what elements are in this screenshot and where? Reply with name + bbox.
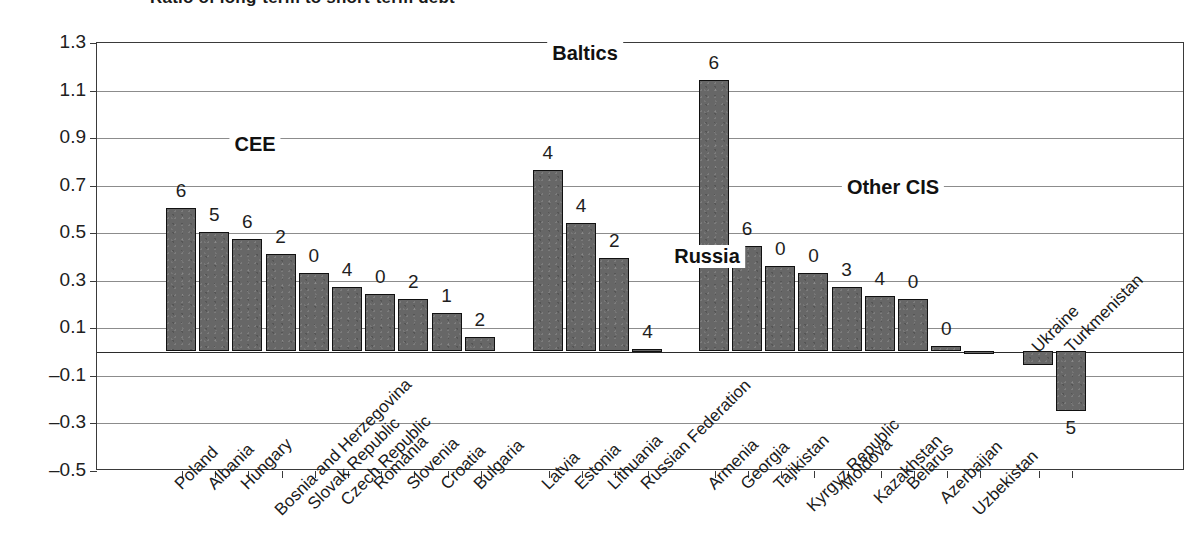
y-tick-label: 1.1 xyxy=(60,79,86,101)
x-tick-mark xyxy=(1039,471,1040,478)
bar-value-label: 2 xyxy=(475,309,486,331)
bar[interactable] xyxy=(1056,351,1086,410)
y-tick-mark xyxy=(90,233,97,234)
bar[interactable] xyxy=(365,294,395,351)
bar-value-label: 2 xyxy=(408,271,419,293)
y-tick-label: 0.5 xyxy=(60,221,86,243)
bar[interactable] xyxy=(599,258,629,351)
group-label-other-cis: Other CIS xyxy=(842,176,944,199)
y-tick-label: –0.1 xyxy=(49,364,86,386)
bar-value-label: 4 xyxy=(576,195,587,217)
bar-value-label: 2 xyxy=(275,226,286,248)
x-tick-mark xyxy=(282,471,283,478)
bar-value-label: 0 xyxy=(808,245,819,267)
bar-value-label: 3 xyxy=(841,259,852,281)
zero-line xyxy=(97,352,1183,353)
gridline xyxy=(97,423,1183,424)
bar[interactable] xyxy=(566,223,596,351)
y-tick-label: 0.9 xyxy=(60,126,86,148)
y-tick-mark xyxy=(90,43,97,44)
bar-value-label: 1 xyxy=(441,285,452,307)
x-tick-mark xyxy=(1072,471,1073,478)
bar-value-label: 4 xyxy=(642,321,653,343)
gridline xyxy=(97,233,1183,234)
bar[interactable] xyxy=(632,349,662,352)
bar[interactable] xyxy=(398,299,428,351)
bar[interactable] xyxy=(964,351,994,354)
bar[interactable] xyxy=(232,239,262,351)
x-tick-mark xyxy=(814,471,815,478)
y-tick-label: –0.5 xyxy=(49,459,86,481)
x-tick-mark xyxy=(947,471,948,478)
bar[interactable] xyxy=(199,232,229,351)
bar-value-label: 6 xyxy=(242,211,253,233)
bar[interactable] xyxy=(266,254,296,351)
bar-value-label: 0 xyxy=(309,245,320,267)
bar-value-label: 4 xyxy=(543,142,554,164)
y-tick-label: 0.7 xyxy=(60,174,86,196)
group-label-cee: CEE xyxy=(229,133,280,156)
y-tick-mark xyxy=(90,186,97,187)
y-tick-label: 1.3 xyxy=(60,31,86,53)
bar[interactable] xyxy=(931,346,961,351)
bar-value-label: 6 xyxy=(709,52,720,74)
y-tick-label: 0.3 xyxy=(60,269,86,291)
chart-title-cropped: Ratio of long-term to short-term debt xyxy=(150,0,455,8)
bar-value-label: 6 xyxy=(176,180,187,202)
bar[interactable] xyxy=(299,273,329,351)
y-tick-label: 0.1 xyxy=(60,316,86,338)
y-tick-mark xyxy=(90,138,97,139)
bar[interactable] xyxy=(533,170,563,351)
y-tick-mark xyxy=(90,91,97,92)
bar[interactable] xyxy=(865,296,895,351)
bar[interactable] xyxy=(898,299,928,351)
bar-value-label: 0 xyxy=(908,271,919,293)
y-tick-label: –0.3 xyxy=(49,411,86,433)
bar-value-label: 2 xyxy=(609,230,620,252)
bar-value-label: 0 xyxy=(775,238,786,260)
gridline xyxy=(97,91,1183,92)
group-label-baltics: Baltics xyxy=(547,42,623,65)
y-tick-mark xyxy=(90,281,97,282)
bar[interactable] xyxy=(465,337,495,351)
gridline xyxy=(97,376,1183,377)
bar-value-label: 6 xyxy=(742,218,753,240)
y-tick-mark xyxy=(90,423,97,424)
bar-chart: Ratio of long-term to short-term debt 1.… xyxy=(0,0,1200,540)
bar[interactable] xyxy=(332,287,362,351)
bar-value-label: 4 xyxy=(875,268,886,290)
bar[interactable] xyxy=(166,208,196,351)
bar-value-label: 5 xyxy=(209,204,220,226)
bar-value-label: 0 xyxy=(375,266,386,288)
bar[interactable] xyxy=(798,273,828,351)
y-tick-mark xyxy=(90,376,97,377)
bar[interactable] xyxy=(832,287,862,351)
bar-value-label: 4 xyxy=(342,259,353,281)
bar-value-label: 0 xyxy=(941,318,952,340)
bar[interactable] xyxy=(699,80,729,351)
bar-value-label: 5 xyxy=(1065,417,1076,439)
bar[interactable] xyxy=(432,313,462,351)
y-tick-mark xyxy=(90,471,97,472)
gridline xyxy=(97,186,1183,187)
bar[interactable] xyxy=(765,266,795,352)
y-tick-mark xyxy=(90,328,97,329)
group-label-russia: Russia xyxy=(669,245,745,268)
x-tick-mark xyxy=(881,471,882,478)
